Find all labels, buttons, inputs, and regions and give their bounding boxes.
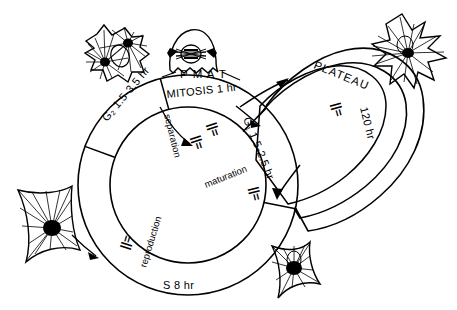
annotation-maturation-text: maturation (203, 163, 249, 190)
plateau-duration-text: 120 hr (358, 106, 378, 141)
aster-cell-bottom-right (272, 242, 320, 298)
annotation-separation: separation ||= (162, 113, 207, 159)
telophase-pole-a (100, 58, 110, 67)
phase-label-g2-text: G₂ 1.5-3.5 hr (99, 64, 151, 123)
plateau-marker: ||= (329, 101, 346, 118)
annotation-reproduction-marker: ||= (117, 234, 134, 251)
phase-label-s: S 8 hr (163, 279, 194, 291)
plateau-marker-text: ||= (329, 101, 346, 118)
phase-label-s-text: S 8 hr (163, 279, 194, 291)
divider-s-g2 (84, 146, 114, 157)
aster-pole (43, 220, 61, 236)
phase-label-g2: G₂ 1.5-3.5 hr (99, 64, 151, 123)
phase-label-mitosis-text: MITOSIS 1 hr (166, 81, 238, 100)
diagram-canvas: G₂ 1.5-3.5 hr MITOSIS 1 hr G₁ 1.5-2.5 hr… (0, 0, 457, 310)
arrow-reproduction-head (88, 252, 99, 260)
mitosis-exit-marker-text: ||= (205, 121, 223, 138)
annotation-maturation: maturation ||= (203, 163, 264, 202)
annotation-maturation-marker: ||= (247, 185, 264, 202)
annotation-reproduction: reproduction ||= (117, 215, 163, 269)
cell-cycle-diagram: G₂ 1.5-3.5 hr MITOSIS 1 hr G₁ 1.5-2.5 hr… (0, 0, 457, 310)
metaphase-cell (167, 30, 218, 73)
mitosis-exit-marker: ||= (205, 121, 223, 138)
phase-label-mitosis: MITOSIS 1 hr (166, 81, 238, 100)
annotation-separation-marker: ||= (189, 134, 207, 151)
annotation-reproduction-text: reproduction (137, 215, 163, 269)
aster-pole (286, 261, 302, 275)
aster-cell-left (18, 186, 80, 262)
plateau-duration: 120 hr (358, 106, 378, 141)
telophase-pole-b (123, 39, 133, 48)
